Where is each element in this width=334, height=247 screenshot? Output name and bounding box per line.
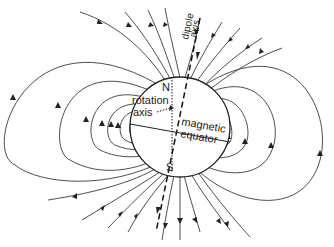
field-line	[80, 12, 168, 85]
rotation-axis-label: rotation	[132, 94, 169, 106]
arrow-icon	[55, 102, 61, 108]
arrow-icon	[224, 221, 229, 227]
arrow-icon	[245, 44, 250, 49]
south-label: S	[166, 161, 173, 173]
field-line	[203, 48, 282, 95]
field-line	[148, 10, 175, 80]
arrow-icon	[163, 22, 168, 27]
arrow-icon	[83, 116, 89, 122]
arrow-icon	[216, 218, 221, 224]
arrow-icon	[118, 211, 123, 217]
arrow-icon	[259, 48, 264, 54]
arrow-icon	[100, 205, 105, 211]
field-line	[162, 175, 174, 240]
arrow-icon	[196, 52, 200, 60]
field-line	[165, 8, 180, 78]
north-label: N	[162, 81, 170, 93]
arrow-icon	[228, 37, 233, 42]
arrow-icon	[148, 22, 154, 27]
magnetic-field-diagram: N S rotation axis magnetic equator dipol…	[0, 0, 334, 247]
dipole-axis-label-2: axis	[187, 19, 201, 39]
field-line	[184, 175, 200, 232]
arrow-icon	[156, 207, 161, 214]
arrow-icon	[10, 94, 16, 100]
arrow-icon	[126, 22, 132, 27]
arrow-icon	[192, 217, 197, 223]
arrow-icon	[177, 218, 183, 224]
field-lines-bottom	[48, 164, 250, 240]
field-line	[195, 28, 240, 84]
rotation-axis-label-2: axis	[133, 106, 153, 118]
arrow-icon	[268, 142, 274, 148]
field-line	[195, 168, 250, 237]
arrow-icon	[99, 120, 105, 126]
